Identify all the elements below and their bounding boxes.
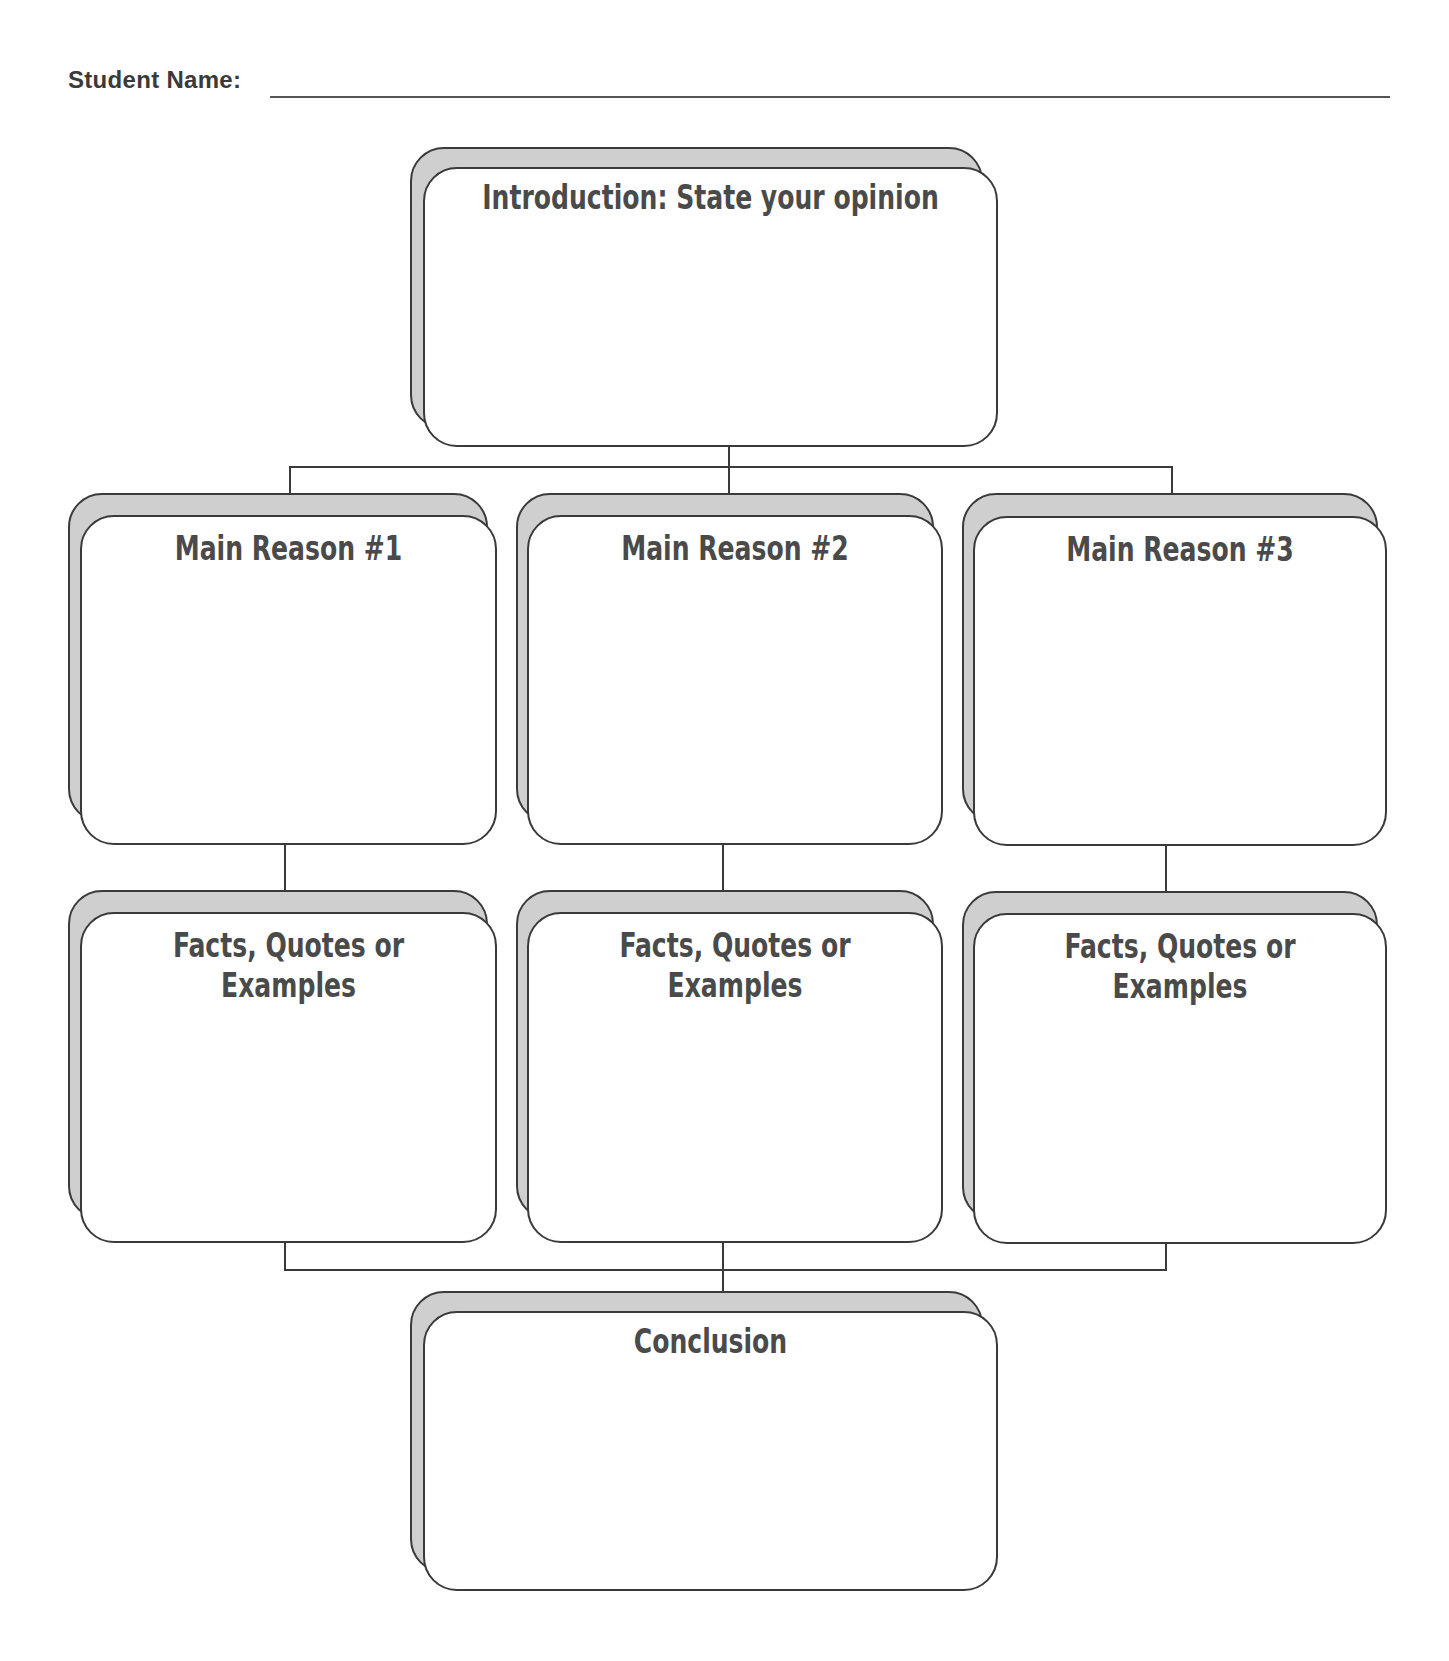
facts-1-box[interactable]: Facts, Quotes or Examples (68, 890, 497, 1243)
conclusion-title: Conclusion (475, 1321, 947, 1361)
main-reason-2-box[interactable]: Main Reason #2 (516, 493, 943, 845)
connector-reason1 (289, 466, 291, 494)
connector-top-bar (289, 466, 1173, 468)
student-name-label: Student Name: (68, 66, 241, 94)
introduction-box[interactable]: Introduction: State your opinion (410, 147, 998, 447)
student-name-line[interactable] (270, 96, 1390, 98)
main-reason-1-title: Main Reason #1 (118, 528, 460, 568)
introduction-title: Introduction: State your opinion (475, 177, 947, 217)
main-reason-2-title: Main Reason #2 (564, 528, 905, 568)
facts-1-title: Facts, Quotes or Examples (118, 925, 460, 1005)
connector-reason2-facts2 (722, 845, 724, 891)
connector-bottom-bar (284, 1269, 1167, 1271)
main-reason-3-box[interactable]: Main Reason #3 (962, 493, 1387, 846)
connector-reason1-facts1 (284, 845, 286, 891)
main-reason-3-title: Main Reason #3 (1010, 529, 1349, 569)
connector-facts3-down (1165, 1244, 1167, 1271)
connector-intro-down (728, 447, 730, 467)
connector-facts1-down (284, 1243, 286, 1271)
main-reason-1-box[interactable]: Main Reason #1 (68, 493, 497, 845)
facts-2-box[interactable]: Facts, Quotes or Examples (516, 890, 943, 1243)
facts-3-box[interactable]: Facts, Quotes or Examples (962, 891, 1387, 1244)
facts-2-title: Facts, Quotes or Examples (564, 925, 905, 1005)
conclusion-box[interactable]: Conclusion (410, 1291, 998, 1591)
connector-reason3 (1171, 466, 1173, 494)
connector-reason3-facts3 (1165, 846, 1167, 891)
facts-3-title: Facts, Quotes or Examples (1010, 926, 1349, 1006)
connector-reason2 (728, 466, 730, 494)
connector-conclusion (722, 1243, 724, 1292)
